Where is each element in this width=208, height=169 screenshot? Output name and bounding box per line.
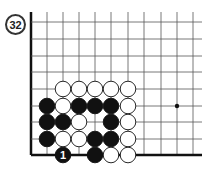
star-point-icon — [175, 104, 179, 108]
black-stone — [103, 131, 119, 147]
white-stone — [55, 81, 71, 97]
black-stone — [55, 114, 71, 130]
white-stone — [120, 81, 136, 97]
black-stone — [39, 131, 55, 147]
star-points — [175, 104, 179, 108]
white-stone — [87, 81, 103, 97]
black-stone — [39, 114, 55, 130]
black-stone — [103, 114, 119, 130]
go-board: 1 — [0, 0, 208, 169]
black-stone — [87, 131, 103, 147]
white-stone — [103, 81, 119, 97]
black-stone — [39, 98, 55, 114]
white-stone — [71, 131, 87, 147]
white-stone — [120, 147, 136, 163]
black-stone — [87, 147, 103, 163]
black-stone — [87, 98, 103, 114]
black-stone — [71, 98, 87, 114]
move-number-label: 1 — [60, 149, 66, 161]
white-stone — [71, 81, 87, 97]
white-stone — [55, 98, 71, 114]
black-stone: 1 — [55, 147, 71, 163]
black-stone — [103, 98, 119, 114]
white-stone — [71, 114, 87, 130]
white-stone — [103, 147, 119, 163]
white-stone — [55, 131, 71, 147]
white-stone — [120, 131, 136, 147]
white-stone — [120, 114, 136, 130]
white-stone — [120, 98, 136, 114]
